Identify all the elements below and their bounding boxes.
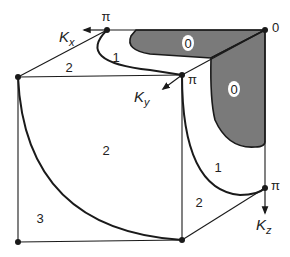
zone-2-side-label: 2 <box>195 195 202 210</box>
ky-axis-arrow <box>163 75 182 89</box>
zone-2-front-label: 2 <box>102 143 109 158</box>
vertex-origin <box>262 27 268 33</box>
zone-1-side-label: 1 <box>214 160 221 175</box>
zone-0-top-label: 0 <box>184 36 191 51</box>
ky-axis-label: Ky <box>134 88 151 108</box>
kx-axis-label: Kx <box>59 28 75 48</box>
origin-label: 0 <box>272 20 279 35</box>
vertex-bottom-right <box>179 237 185 243</box>
vertex-bottom-left <box>15 239 21 245</box>
zone-2-top-label: 2 <box>65 60 72 75</box>
zone-0-side-label: 0 <box>230 82 237 97</box>
kz-axis-label: Kz <box>256 216 272 236</box>
vertex-ky-pi <box>179 72 185 78</box>
vertex-top-front-left <box>15 74 21 80</box>
vertex-kx-pi <box>104 27 110 33</box>
brillouin-cube-diagram: π 0 π π Kx Ky Kz 0 0 1 1 2 2 2 3 <box>0 0 290 257</box>
ky-pi-label: π <box>188 72 197 87</box>
kz-pi-label: π <box>271 178 280 193</box>
zone-1-top-label: 1 <box>112 50 119 65</box>
vertex-kz-pi <box>262 185 268 191</box>
kx-pi-label: π <box>102 9 111 24</box>
zone-3-front-label: 3 <box>36 211 43 226</box>
